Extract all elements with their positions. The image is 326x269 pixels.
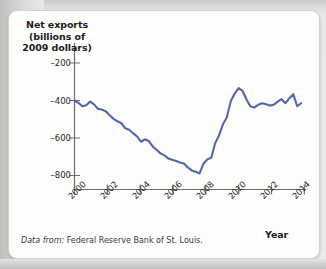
y-tick-label-minus200: –200 [33,58,71,68]
y-axis-title-line-1: Net exports [15,19,99,31]
scanned-page-background: Net exports (billions of 2009 dollars) –… [0,0,326,269]
net-exports-line [75,88,302,173]
chart-plot-area: Net exports (billions of 2009 dollars) –… [9,11,319,258]
y-tick-label-minus800: –800 [33,170,71,180]
figure-card: Net exports (billions of 2009 dollars) –… [8,10,320,259]
y-axis-title-line-3: 2009 dollars) [15,42,99,54]
source-note-lead: Data from: [21,236,64,245]
x-axis-title: Year [265,229,305,241]
source-note-body: Federal Reserve Bank of St. Louis. [64,236,203,245]
y-tick-label-minus600: –600 [33,133,71,143]
y-axis-title: Net exports (billions of 2009 dollars) [15,19,99,54]
source-note: Data from: Federal Reserve Bank of St. L… [21,236,203,245]
y-tick-label-minus400: –400 [33,96,71,106]
y-axis-title-line-2: (billions of [15,31,99,43]
